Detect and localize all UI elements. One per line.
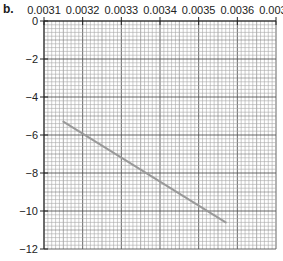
- y-tick-label: −10: [19, 205, 38, 217]
- y-tick-label: −6: [25, 129, 38, 141]
- y-tick-label: −12: [19, 243, 38, 255]
- x-tick-label: 0.0032: [66, 4, 100, 16]
- grid-lines: [44, 21, 276, 249]
- chart-plot: 0.00310.00320.00330.00340.00350.00360.00…: [0, 0, 283, 261]
- y-tick-label: 0: [32, 15, 38, 27]
- x-tick-label: 0.0037: [259, 4, 283, 16]
- y-tick-label: −8: [25, 167, 38, 179]
- y-tick-label: −2: [25, 53, 38, 65]
- x-tick-label: 0.0034: [143, 4, 177, 16]
- x-tick-label: 0.0035: [182, 4, 216, 16]
- x-tick-label: 0.0036: [221, 4, 255, 16]
- x-tick-label: 0.0033: [105, 4, 139, 16]
- y-tick-label: −4: [25, 91, 38, 103]
